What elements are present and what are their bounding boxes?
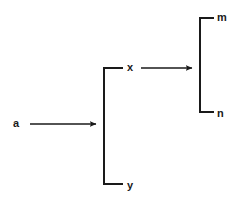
bracket-xy [104,68,122,184]
diagram-graphics [0,0,248,199]
diagram-canvas: a x y m n [0,0,248,199]
node-label-m: m [217,12,227,23]
bracket-mn [200,18,213,112]
node-label-x: x [127,62,133,73]
bracket-xy-outline [104,68,122,184]
node-label-a: a [13,118,19,129]
node-label-y: y [127,180,133,191]
node-label-n: n [217,108,224,119]
bracket-mn-outline [200,18,213,112]
